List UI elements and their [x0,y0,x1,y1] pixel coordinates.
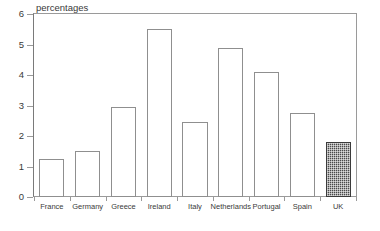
x-axis-label-spain: Spain [293,203,312,211]
bar-italy[interactable] [182,122,207,197]
x-axis-tick [356,197,357,201]
y-axis-label: 5 [4,40,24,50]
chart-title: percentages [36,3,88,13]
y-axis-tick [27,167,33,168]
y-axis-tick [27,197,33,198]
bar-chart: percentages 0123456 FranceGermanyGreeceI… [0,0,380,231]
x-axis-label-netherlands: Netherlands [211,203,251,211]
y-axis-tick [27,14,33,15]
bar-netherlands[interactable] [218,48,243,197]
x-axis-tick [177,197,178,201]
y-axis-label: 6 [4,9,24,19]
x-axis-tick [320,197,321,201]
x-axis-label-germany: Germany [72,203,103,211]
y-axis-tick [27,45,33,46]
y-axis-tick [27,136,33,137]
bar-uk[interactable] [326,142,351,197]
y-axis-label: 4 [4,70,24,80]
bar-germany[interactable] [75,151,100,197]
y-axis-label: 0 [4,192,24,202]
bar-ireland[interactable] [147,29,172,197]
x-axis-label-greece: Greece [111,203,136,211]
x-axis-tick [284,197,285,201]
x-axis-label-france: France [40,203,63,211]
x-axis-tick [213,197,214,201]
bar-france[interactable] [39,159,64,197]
y-axis-label: 3 [4,101,24,111]
x-axis-tick [249,197,250,201]
x-axis-tick [141,197,142,201]
y-axis-tick [27,75,33,76]
x-axis-label-italy: Italy [188,203,202,211]
x-axis-label-portugal: Portugal [253,203,281,211]
bar-spain[interactable] [290,113,315,197]
x-axis-tick [106,197,107,201]
x-axis-label-uk: UK [333,203,343,211]
bar-portugal[interactable] [254,72,279,197]
x-axis-label-ireland: Ireland [148,203,171,211]
y-axis-label: 2 [4,131,24,141]
y-axis-label: 1 [4,162,24,172]
x-axis-tick [70,197,71,201]
bars-container [34,14,356,197]
y-axis-tick [27,106,33,107]
bar-greece[interactable] [111,107,136,197]
x-axis-tick [34,197,35,201]
